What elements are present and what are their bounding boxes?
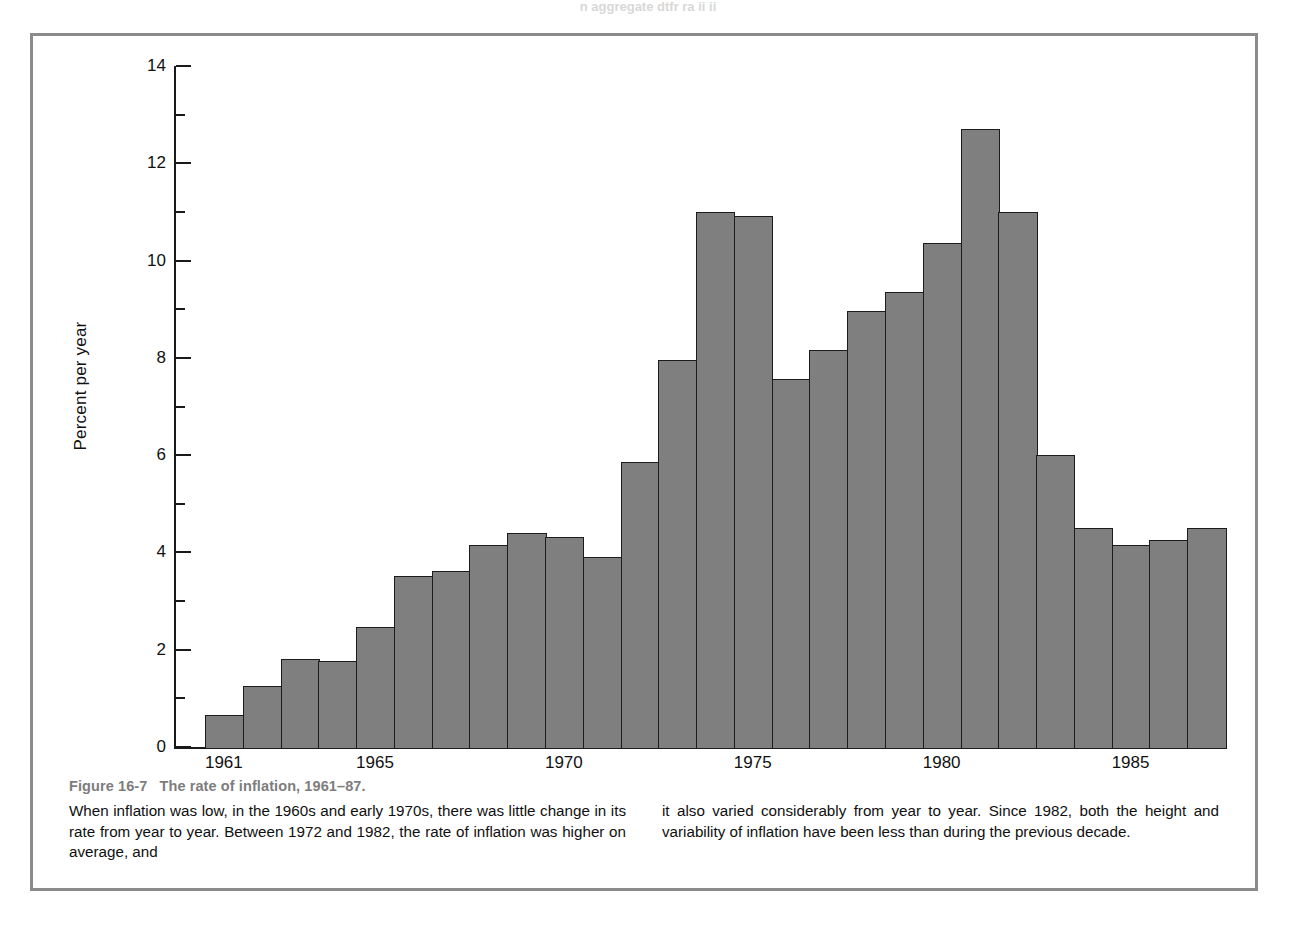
y-tick-label: 6 <box>128 445 166 465</box>
y-tick-minor <box>176 114 185 116</box>
y-tick-major <box>176 260 191 262</box>
bar <box>1149 540 1188 749</box>
bar <box>318 661 357 749</box>
bar-series <box>205 66 1225 749</box>
bar <box>583 557 622 749</box>
y-tick-label: 12 <box>128 153 166 173</box>
bar <box>469 545 508 749</box>
y-tick-minor <box>176 211 185 213</box>
y-tick-label: 2 <box>128 640 166 660</box>
bar <box>243 686 282 749</box>
figure-number: Figure 16-7 <box>69 778 147 794</box>
figure-title: The rate of inflation, 1961–87. <box>159 778 365 794</box>
y-tick-major <box>176 746 191 748</box>
y-tick-major <box>176 357 191 359</box>
bar <box>545 537 584 749</box>
y-tick-minor <box>176 308 185 310</box>
caption-title: Figure 16-7The rate of inflation, 1961–8… <box>69 778 1219 794</box>
y-tick-label: 14 <box>128 56 166 76</box>
y-tick-label: 8 <box>128 348 166 368</box>
y-tick-major <box>176 551 191 553</box>
bar <box>621 462 660 749</box>
y-tick-label: 0 <box>128 737 166 757</box>
bar <box>507 533 546 749</box>
bar <box>1112 545 1151 749</box>
bar <box>734 216 773 749</box>
bar <box>1187 528 1226 749</box>
bar <box>961 129 1000 749</box>
y-tick-major <box>176 649 191 651</box>
bar <box>696 212 735 750</box>
x-tick-label: 1980 <box>923 753 961 773</box>
y-axis-label: Percent per year <box>71 276 91 496</box>
x-tick-label: 1965 <box>356 753 394 773</box>
y-tick-minor <box>176 697 185 699</box>
scan-bleed-artifact: n aggregate dtfr ra ii ii <box>0 0 1296 22</box>
bar <box>998 212 1037 750</box>
x-tick-label: 1975 <box>734 753 772 773</box>
bar <box>205 715 244 749</box>
figure-frame: Percent per year 02468101214 19611965197… <box>30 33 1258 891</box>
bar <box>923 243 962 749</box>
bar <box>394 576 433 749</box>
y-tick-minor <box>176 600 185 602</box>
bar <box>281 659 320 749</box>
figure-caption: Figure 16-7The rate of inflation, 1961–8… <box>69 778 1219 863</box>
bar <box>1036 455 1075 749</box>
y-tick-major <box>176 454 191 456</box>
bar <box>1074 528 1113 749</box>
y-tick-major <box>176 162 191 164</box>
x-tick-label: 1970 <box>545 753 583 773</box>
bar <box>772 379 811 749</box>
caption-columns: When inflation was low, in the 1960s and… <box>69 801 1219 863</box>
bar <box>658 360 697 749</box>
bar <box>847 311 886 749</box>
bar <box>432 571 471 749</box>
y-tick-minor <box>176 406 185 408</box>
caption-column-right: it also varied considerably from year to… <box>662 801 1219 863</box>
caption-text-left: When inflation was low, in the 1960s and… <box>69 801 626 863</box>
bar <box>356 627 395 749</box>
caption-column-left: When inflation was low, in the 1960s and… <box>69 801 626 863</box>
y-tick-major <box>176 65 191 67</box>
bar <box>885 292 924 749</box>
chart-plot-region: Percent per year 02468101214 19611965197… <box>33 36 1255 754</box>
bar <box>809 350 848 749</box>
caption-text-right: it also varied considerably from year to… <box>662 801 1219 842</box>
y-tick-minor <box>176 503 185 505</box>
y-tick-label: 4 <box>128 542 166 562</box>
y-axis-line <box>174 66 176 749</box>
x-tick-label: 1961 <box>205 753 243 773</box>
y-tick-label: 10 <box>128 251 166 271</box>
x-tick-label: 1985 <box>1112 753 1150 773</box>
